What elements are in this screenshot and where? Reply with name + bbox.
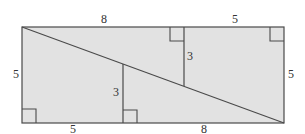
label-top-right: 5 bbox=[232, 12, 238, 26]
label-bottom-left: 5 bbox=[70, 122, 76, 134]
label-top-left: 8 bbox=[101, 12, 107, 26]
label-upper-height: 3 bbox=[187, 49, 193, 63]
label-lower-height: 3 bbox=[113, 85, 119, 99]
geometry-diagram: 8 5 5 5 5 8 3 3 bbox=[0, 0, 305, 134]
label-right-side: 5 bbox=[288, 67, 294, 81]
label-bottom-right: 8 bbox=[201, 122, 207, 134]
label-left-side: 5 bbox=[13, 67, 19, 81]
